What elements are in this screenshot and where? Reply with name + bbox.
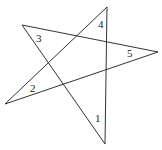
edge-left-right [5, 52, 158, 104]
edge-right-upper_left [22, 25, 158, 52]
angle-label-1: 1 [95, 112, 101, 124]
star-edges [5, 7, 158, 144]
angle-labels: 12345 [30, 18, 133, 124]
edge-top-left [5, 7, 107, 104]
pentagram-diagram: 12345 [0, 0, 162, 150]
edge-bottom-top [105, 7, 107, 144]
angle-label-2: 2 [30, 82, 36, 94]
angle-label-5: 5 [127, 47, 133, 59]
angle-label-3: 3 [36, 32, 42, 44]
angle-label-4: 4 [98, 18, 104, 30]
